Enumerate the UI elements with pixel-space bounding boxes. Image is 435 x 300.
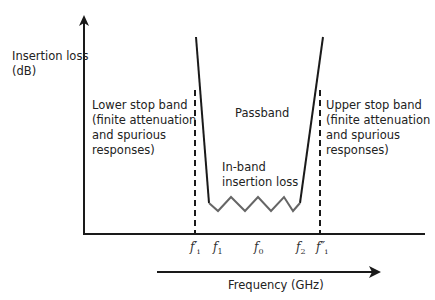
- lower-skirt-curve: [196, 37, 209, 203]
- in-band-line1: In-band: [222, 160, 298, 175]
- y-axis-label-line2: (dB): [12, 64, 88, 79]
- tick-f1: f1: [213, 240, 223, 256]
- tick-f0: f0: [254, 240, 264, 256]
- lower-stop-line3: and spurious: [92, 128, 196, 143]
- passband-label: Passband: [235, 106, 289, 121]
- upper-stop-band-label: Upper stop band (finite attenuation and …: [326, 98, 430, 158]
- upper-stop-line3: and spurious: [326, 128, 430, 143]
- lower-stop-line4: responses): [92, 143, 196, 158]
- in-band-line2: insertion loss: [222, 175, 298, 190]
- upper-stop-line1: Upper stop band: [326, 98, 430, 113]
- tick-f2: f2: [296, 240, 306, 256]
- x-axis-label: Frequency (GHz): [228, 278, 324, 293]
- in-band-insertion-loss-label: In-band insertion loss: [222, 160, 298, 190]
- lower-stop-band-label: Lower stop band (finite attenuation and …: [92, 98, 196, 158]
- passband-ripple: [209, 197, 300, 211]
- y-axis-label-line1: Insertion loss: [12, 49, 88, 64]
- tick-fi-prime: f′i: [190, 240, 200, 256]
- y-axis-label: Insertion loss (dB): [12, 49, 88, 79]
- lower-stop-line1: Lower stop band: [92, 98, 196, 113]
- lower-stop-line2: (finite attenuation: [92, 113, 196, 128]
- upper-stop-line2: (finite attenuation: [326, 113, 430, 128]
- upper-stop-line4: responses): [326, 143, 430, 158]
- tick-fi-double-prime: f″i: [316, 240, 328, 256]
